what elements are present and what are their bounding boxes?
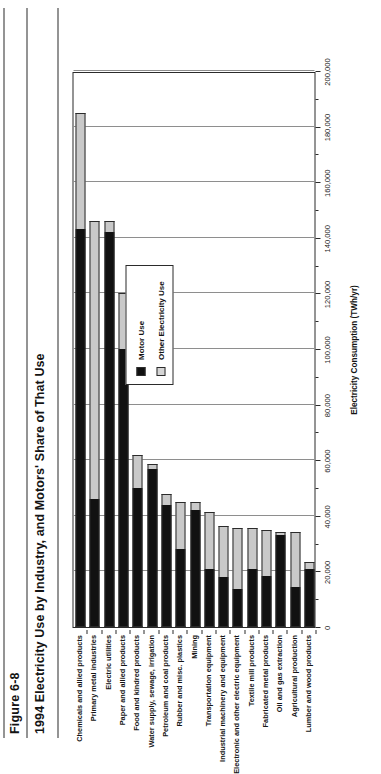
category-tick bbox=[315, 630, 316, 634]
bar-segment-other-electricity-use bbox=[218, 526, 228, 577]
category-tick bbox=[272, 630, 273, 634]
category-tick bbox=[129, 630, 130, 634]
figure-number: Figure 6-8 bbox=[7, 672, 21, 734]
bar-segment-other-electricity-use bbox=[261, 530, 271, 576]
category-label: Transportation equipment bbox=[203, 635, 213, 726]
bar-segment-other-electricity-use bbox=[104, 221, 114, 232]
bar-row bbox=[218, 526, 228, 627]
value-axis-tick bbox=[315, 460, 320, 461]
plot-area bbox=[72, 72, 315, 628]
category-label: Fabricated metal products bbox=[260, 635, 270, 727]
category-tick bbox=[101, 630, 102, 634]
bar-segment-other-electricity-use bbox=[175, 502, 185, 549]
value-axis-tick-label: 80,000 bbox=[322, 394, 331, 417]
bar-row bbox=[104, 221, 114, 627]
bar-segment-other-electricity-use bbox=[132, 455, 142, 488]
bar-segment-motor-use bbox=[218, 577, 228, 627]
category-tick bbox=[158, 630, 159, 634]
bar-segment-other-electricity-use bbox=[204, 512, 214, 569]
value-axis-tick bbox=[315, 182, 320, 183]
chart-container: Chemicals and allied productsPrimary met… bbox=[62, 0, 381, 746]
bar-segment-motor-use bbox=[147, 469, 157, 627]
category-label: Electric utilities bbox=[103, 635, 113, 690]
legend-swatch-motor-icon bbox=[136, 367, 145, 376]
category-tick bbox=[229, 630, 230, 634]
bar-segment-motor-use bbox=[118, 349, 128, 627]
bar-row bbox=[175, 502, 185, 627]
category-label: Paper and allied products bbox=[117, 635, 127, 725]
category-axis-labels: Chemicals and allied productsPrimary met… bbox=[72, 630, 315, 746]
value-axis-minor-tick bbox=[315, 99, 318, 100]
bar-row bbox=[75, 113, 85, 627]
category-tick bbox=[115, 630, 116, 634]
category-tick bbox=[201, 630, 202, 634]
bar-row bbox=[190, 502, 200, 627]
value-axis-tick bbox=[315, 516, 320, 517]
category-label: Mining bbox=[189, 635, 199, 659]
bar-segment-motor-use bbox=[275, 535, 285, 627]
category-label: Industrial machinery and equipment bbox=[217, 635, 227, 762]
bar-segment-motor-use bbox=[104, 232, 114, 627]
bar-segment-motor-use bbox=[75, 229, 85, 627]
header-rule-middle bbox=[26, 8, 27, 738]
bar-segment-motor-use bbox=[132, 488, 142, 627]
bar-row bbox=[232, 528, 242, 627]
category-tick bbox=[286, 630, 287, 634]
category-tick bbox=[143, 630, 144, 634]
category-tick bbox=[258, 630, 259, 634]
bar-row bbox=[89, 221, 99, 627]
category-label: Lumber and wood products bbox=[303, 635, 313, 732]
value-axis-tick-label: 100,000 bbox=[322, 336, 331, 363]
value-axis-tick bbox=[315, 349, 320, 350]
value-axis-minor-tick bbox=[315, 266, 318, 267]
legend-item-motor-use: Motor Use bbox=[132, 274, 148, 376]
bar-segment-other-electricity-use bbox=[247, 528, 257, 568]
value-axis-tick-label: 160,000 bbox=[322, 169, 331, 196]
value-axis-minor-tick bbox=[315, 544, 318, 545]
category-tick bbox=[215, 630, 216, 634]
value-axis-tick-label: 40,000 bbox=[322, 505, 331, 528]
bar-segment-motor-use bbox=[304, 569, 314, 627]
bar-segment-motor-use bbox=[204, 569, 214, 627]
category-label: Primary metal industries bbox=[88, 635, 98, 721]
category-tick bbox=[244, 630, 245, 634]
value-axis-minor-tick bbox=[315, 377, 318, 378]
category-tick bbox=[86, 630, 87, 634]
value-axis-tick bbox=[315, 238, 320, 239]
value-axis-minor-tick bbox=[315, 432, 318, 433]
figure-title: 1994 Electricity Use by Industry, and Mo… bbox=[32, 353, 46, 734]
value-axis-minor-tick bbox=[315, 599, 318, 600]
category-label: Agricultural production bbox=[289, 635, 299, 717]
bar-row bbox=[304, 562, 314, 627]
bar-row bbox=[161, 494, 171, 627]
chart-legend: Motor Use Other Electricity Use bbox=[125, 265, 173, 385]
category-tick bbox=[186, 630, 187, 634]
bar-row bbox=[132, 455, 142, 627]
header-rule-bottom bbox=[57, 8, 58, 738]
category-label: Rubber and misc. plastics bbox=[174, 635, 184, 727]
bar-segment-motor-use bbox=[232, 589, 242, 627]
bar-series-group bbox=[73, 73, 314, 627]
category-label: Chemicals and allied products bbox=[74, 635, 84, 742]
category-label: Oil and gas extraction bbox=[274, 635, 284, 712]
bar-row bbox=[275, 533, 285, 628]
gridline bbox=[73, 70, 314, 71]
bar-segment-motor-use bbox=[190, 510, 200, 627]
bar-segment-motor-use bbox=[175, 549, 185, 627]
value-axis-minor-tick bbox=[315, 321, 318, 322]
bar-segment-other-electricity-use bbox=[232, 528, 242, 589]
header-rule-top bbox=[3, 8, 4, 738]
legend-swatch-other-icon bbox=[156, 367, 165, 376]
value-axis-tick-label: 0 bbox=[322, 626, 331, 630]
bar-segment-other-electricity-use bbox=[147, 464, 157, 468]
value-axis-tick bbox=[315, 405, 320, 406]
bar-row bbox=[290, 533, 300, 628]
bar-segment-other-electricity-use bbox=[190, 502, 200, 510]
category-label: Textile mill products bbox=[246, 635, 256, 706]
bar-row bbox=[204, 512, 214, 627]
bar-segment-motor-use bbox=[247, 569, 257, 627]
bar-segment-other-electricity-use bbox=[89, 221, 99, 499]
bar-segment-other-electricity-use bbox=[75, 113, 85, 230]
